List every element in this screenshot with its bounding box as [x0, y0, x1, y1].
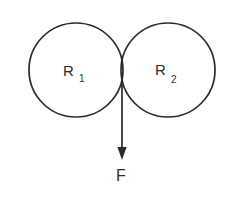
left-circle-subscript: 1	[79, 73, 85, 84]
right-circle	[121, 23, 215, 117]
diagram-canvas: R 1 R 2 F	[0, 0, 228, 198]
left-circle	[29, 23, 123, 117]
force-label: F	[116, 167, 126, 184]
right-circle-subscript: 2	[171, 74, 177, 85]
force-arrowhead-icon	[117, 147, 126, 160]
right-circle-label: R	[155, 61, 166, 78]
left-circle-label: R	[63, 62, 74, 79]
physics-diagram: R 1 R 2 F	[0, 0, 228, 198]
